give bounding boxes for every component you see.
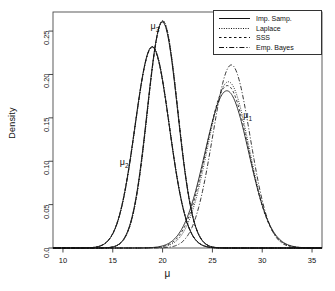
legend-label: SSS — [256, 33, 270, 42]
y-axis-title: Density — [7, 93, 17, 153]
density-curve-mu_1-dashdot — [53, 65, 322, 248]
legend-line-sample-dotted — [218, 24, 251, 33]
density-curve-mu_3-dashdot — [53, 22, 322, 248]
density-curve-mu_2-dashdot — [53, 47, 322, 248]
y-tick-label: 0.15 — [42, 117, 51, 143]
y-tick-label: 0.05 — [42, 204, 51, 230]
legend-label: Emp. Bayes — [256, 43, 294, 52]
legend-line-sample-dashed — [218, 33, 251, 42]
legend-label: Laplace — [256, 24, 281, 33]
y-tick-label: 0.20 — [42, 74, 51, 100]
density-curve-mu_2-dashed — [53, 48, 322, 248]
x-tick-label: 25 — [200, 256, 224, 265]
legend-item[interactable]: Laplace — [218, 24, 317, 34]
curve-label-mu-2: μ2 — [120, 157, 129, 169]
y-tick-label: 0.25 — [42, 31, 51, 57]
x-tick-label: 35 — [300, 256, 324, 265]
density-curve-mu_3-solid — [53, 22, 322, 248]
y-tick-label: 0.10 — [42, 161, 51, 187]
legend: Imp. Samp. Laplace SSS Emp. Bayes — [213, 10, 322, 55]
density-curve-mu_2-dotted — [53, 47, 322, 248]
curve-label-subscript: 2 — [125, 162, 129, 169]
density-curve-mu_2-solid — [53, 47, 322, 248]
x-tick-label: 10 — [51, 256, 75, 265]
x-tick-label: 15 — [101, 256, 125, 265]
legend-label: Imp. Samp. — [256, 14, 292, 23]
legend-item[interactable]: Emp. Bayes — [218, 43, 317, 53]
density-plot-figure: Density μ 1015202530350.00.050.100.150.2… — [0, 0, 335, 291]
y-tick-label: 0.0 — [42, 248, 51, 274]
x-tick-label: 30 — [250, 256, 274, 265]
legend-item[interactable]: Imp. Samp. — [218, 14, 317, 24]
curve-label-mu-3: μ3 — [151, 21, 160, 33]
curve-label-mu-1: μ1 — [243, 110, 252, 122]
curve-label-subscript: 3 — [156, 26, 160, 33]
legend-line-sample-dashdot — [218, 43, 251, 52]
legend-line-sample-solid — [218, 14, 251, 23]
legend-item[interactable]: SSS — [218, 33, 317, 43]
x-tick-label: 20 — [151, 256, 175, 265]
curve-label-subscript: 1 — [248, 115, 252, 122]
